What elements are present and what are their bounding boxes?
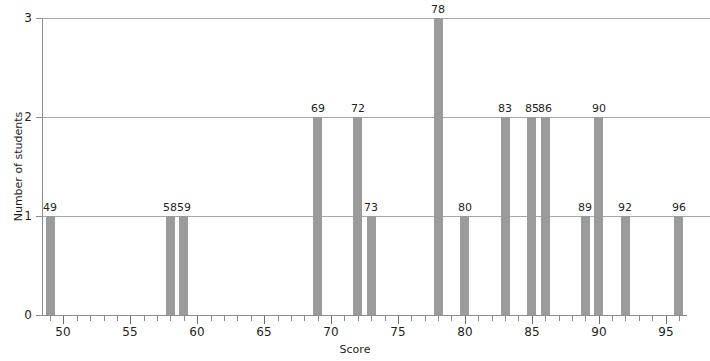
x-tick-label-95: 95 [646, 326, 686, 338]
bar-label-69: 69 [303, 103, 333, 114]
x-tick-minor-61 [211, 316, 212, 321]
x-tick-minor-63 [237, 316, 238, 321]
bar-score-92 [621, 216, 630, 315]
x-axis-title: Score [0, 343, 710, 356]
x-tick-minor-92 [625, 316, 626, 321]
x-tick-major-90 [599, 316, 600, 324]
x-tick-label-50: 50 [43, 326, 83, 338]
x-tick-label-65: 65 [244, 326, 284, 338]
x-tick-minor-58 [170, 316, 171, 321]
x-tick-major-80 [465, 316, 466, 324]
y-tick-1 [36, 216, 42, 217]
bar-score-90 [594, 117, 603, 315]
x-tick-minor-56 [144, 316, 145, 321]
y-tick-2 [36, 117, 42, 118]
x-tick-label-70: 70 [311, 326, 351, 338]
x-tick-minor-76 [411, 316, 412, 321]
x-tick-major-55 [130, 316, 131, 324]
x-tick-minor-84 [518, 316, 519, 321]
x-tick-minor-96 [679, 316, 680, 321]
bar-score-59 [179, 216, 188, 315]
x-tick-major-70 [331, 316, 332, 324]
x-tick-minor-94 [652, 316, 653, 321]
x-tick-minor-51 [77, 316, 78, 321]
x-tick-minor-59 [184, 316, 185, 321]
x-tick-minor-68 [304, 316, 305, 321]
x-tick-major-60 [197, 316, 198, 324]
x-tick-minor-93 [639, 316, 640, 321]
x-tick-minor-69 [318, 316, 319, 321]
x-tick-minor-82 [492, 316, 493, 321]
x-tick-minor-77 [425, 316, 426, 321]
bar-score-72 [353, 117, 362, 315]
bar-score-80 [460, 216, 469, 315]
x-tick-major-65 [264, 316, 265, 324]
bar-label-90: 90 [584, 103, 614, 114]
x-tick-minor-86 [545, 316, 546, 321]
x-tick-minor-62 [224, 316, 225, 321]
x-tick-minor-87 [559, 316, 560, 321]
bar-score-96 [674, 216, 683, 315]
bar-score-85 [527, 117, 536, 315]
bar-score-89 [581, 216, 590, 315]
bar-score-58 [166, 216, 175, 315]
x-tick-minor-49 [50, 316, 51, 321]
x-tick-minor-79 [451, 316, 452, 321]
y-tick-label-3: 3 [0, 12, 32, 24]
x-tick-label-55: 55 [110, 326, 150, 338]
gridline-y-1 [42, 216, 710, 217]
y-tick-3 [36, 18, 42, 19]
x-tick-minor-54 [117, 316, 118, 321]
x-tick-label-60: 60 [177, 326, 217, 338]
bar-label-89: 89 [570, 202, 600, 213]
x-tick-minor-67 [291, 316, 292, 321]
x-tick-major-95 [666, 316, 667, 324]
bar-score-49 [46, 216, 55, 315]
x-tick-minor-91 [612, 316, 613, 321]
y-axis-title: Number of students [12, 87, 25, 247]
score-distribution-chart: 0123 50556065707580859095 49585969727378… [0, 0, 710, 361]
x-tick-minor-71 [344, 316, 345, 321]
x-tick-minor-53 [104, 316, 105, 321]
x-tick-minor-78 [438, 316, 439, 321]
bar-score-73 [367, 216, 376, 315]
x-tick-minor-74 [385, 316, 386, 321]
x-tick-label-90: 90 [579, 326, 619, 338]
x-tick-minor-72 [358, 316, 359, 321]
y-tick-0 [36, 315, 42, 316]
bar-score-83 [501, 117, 510, 315]
bar-label-73: 73 [356, 202, 386, 213]
x-tick-major-85 [532, 316, 533, 324]
x-tick-minor-81 [478, 316, 479, 321]
x-tick-label-80: 80 [445, 326, 485, 338]
bar-label-96: 96 [664, 202, 694, 213]
bar-label-59: 59 [169, 202, 199, 213]
bar-score-86 [541, 117, 550, 315]
bar-score-78 [434, 18, 443, 315]
bar-label-83: 83 [490, 103, 520, 114]
x-tick-minor-52 [90, 316, 91, 321]
bar-label-72: 72 [343, 103, 373, 114]
x-tick-minor-66 [278, 316, 279, 321]
bar-label-80: 80 [450, 202, 480, 213]
x-tick-minor-88 [572, 316, 573, 321]
y-tick-label-0: 0 [0, 309, 32, 321]
gridline-y-3 [42, 18, 710, 19]
x-tick-minor-64 [251, 316, 252, 321]
x-tick-major-75 [398, 316, 399, 324]
x-tick-label-75: 75 [378, 326, 418, 338]
y-axis-line [42, 18, 43, 316]
x-tick-minor-57 [157, 316, 158, 321]
bar-score-69 [313, 117, 322, 315]
x-tick-major-50 [63, 316, 64, 324]
bar-label-78: 78 [423, 4, 453, 15]
gridline-y-2 [42, 117, 710, 118]
x-tick-label-85: 85 [512, 326, 552, 338]
bar-label-86: 86 [530, 103, 560, 114]
bar-label-92: 92 [610, 202, 640, 213]
x-tick-minor-73 [371, 316, 372, 321]
bar-label-49: 49 [35, 202, 65, 213]
x-axis-line [42, 315, 687, 316]
x-tick-minor-83 [505, 316, 506, 321]
x-tick-minor-89 [585, 316, 586, 321]
